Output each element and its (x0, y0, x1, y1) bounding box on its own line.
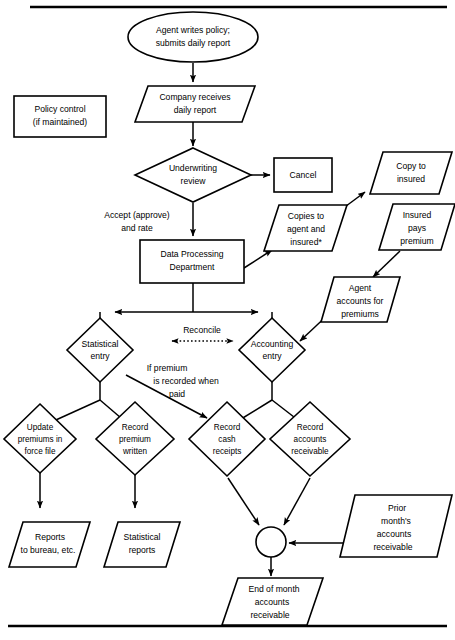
end-of-month-line-1: End of month (248, 584, 299, 594)
insured-pays-line-1: Insured (403, 210, 432, 220)
prior-month-line-4: receivable (373, 542, 412, 552)
agent-accounts-line-2: accounts for (337, 296, 384, 306)
summing-junction-circle (256, 527, 286, 557)
cancel-label: Cancel (290, 170, 317, 180)
accounting-entry-diamond (239, 318, 305, 382)
underwriting-review-line-2: review (181, 176, 207, 186)
if-premium-line-1: If premium (147, 363, 188, 373)
insured-pays-line-3: premium (400, 236, 433, 246)
node-company-receives-daily-report[interactable]: Company receives daily report (135, 86, 255, 122)
record-cash-line-1: Record (214, 423, 241, 432)
node-copy-to-insured[interactable]: Copy to insured (370, 152, 452, 194)
node-agent-accounts-for-premiums[interactable]: Agent accounts for premiums (321, 277, 400, 322)
accounting-entry-line-1: Accounting (251, 339, 294, 349)
edge-label-if-premium-is-recorded-when-paid: If premium is recorded when paid (147, 363, 219, 399)
update-premiums-line-2: premiums in (18, 435, 63, 444)
record-ar-line-1: Record (297, 423, 324, 432)
node-statistical-entry[interactable]: Statistical entry (67, 318, 133, 382)
edge-label-reconcile: Reconcile (183, 325, 221, 335)
statistical-entry-line-2: entry (90, 351, 110, 361)
insured-pays-line-2: pays (408, 223, 426, 233)
edge-label-accept-approve-and-rate: Accept (approve) and rate (104, 210, 170, 233)
node-cancel[interactable]: Cancel (274, 158, 332, 192)
reports-to-bureau-line-2: to bureau, etc. (21, 545, 76, 555)
company-receives-line-1: Company receives (159, 92, 230, 102)
copy-to-insured-line-2: insured (397, 174, 425, 184)
copies-to-agent-line-2: agent and (287, 224, 325, 234)
statistical-entry-diamond (67, 318, 133, 382)
node-accounting-entry[interactable]: Accounting entry (239, 318, 305, 382)
flowchart-page: Agent writes policy; submits daily repor… (0, 0, 455, 640)
reconcile-label: Reconcile (183, 325, 221, 335)
update-premiums-line-1: Update (27, 423, 54, 432)
record-premium-line-1: Record (122, 423, 149, 432)
prior-month-line-1: Prior (388, 503, 406, 513)
statistical-reports-line-2: reports (129, 545, 156, 555)
accept-rate-line-1: Accept (approve) (104, 210, 170, 220)
data-processing-line-1: Data Processing (160, 249, 223, 259)
record-ar-line-2: accounts (294, 435, 327, 444)
underwriting-review-line-1: Underwriting (169, 163, 217, 173)
node-underwriting-review[interactable]: Underwriting review (135, 148, 251, 202)
statistical-entry-line-1: Statistical (82, 339, 119, 349)
record-ar-line-3: receivable (291, 447, 329, 456)
node-end-of-month-accounts-receivable[interactable]: End of month accounts receivable (222, 578, 323, 625)
flowchart-canvas: Agent writes policy; submits daily repor… (0, 0, 455, 640)
node-agent-writes-policy[interactable]: Agent writes policy; submits daily repor… (128, 12, 258, 62)
data-processing-line-2: Department (170, 262, 216, 272)
policy-control-line-2: (if maintained) (33, 117, 88, 127)
node-update-premiums-in-force-file[interactable]: Update premiums in force file (4, 404, 76, 473)
edge-record-cash-to-junction (228, 478, 259, 525)
node-insured-pays-premium[interactable]: Insured pays premium (379, 204, 455, 250)
node-statistical-reports[interactable]: Statistical reports (104, 522, 180, 567)
node-policy-control[interactable]: Policy control (if maintained) (14, 96, 106, 137)
agent-writes-policy-ellipse (128, 12, 258, 62)
copies-to-agent-line-1: Copies to (288, 211, 325, 221)
edge-insured-pays-to-agent-accounts (373, 251, 400, 277)
record-cash-line-2: cash (218, 435, 236, 444)
node-record-accounts-receivable[interactable]: Record accounts receivable (270, 402, 350, 476)
copy-to-insured-parallelogram (370, 152, 452, 194)
edge-record-ar-to-junction (284, 478, 310, 525)
record-premium-line-3: written (122, 447, 148, 456)
record-cash-line-3: receipts (213, 447, 242, 456)
node-reports-to-bureau[interactable]: Reports to bureau, etc. (9, 522, 90, 567)
node-data-processing-department[interactable]: Data Processing Department (140, 240, 244, 283)
edge-data-processing-to-copies (244, 250, 272, 268)
reports-to-bureau-line-1: Reports (35, 532, 65, 542)
copies-to-agent-line-3: insured* (290, 237, 322, 247)
if-premium-line-2: is recorded when (153, 376, 219, 386)
copy-to-insured-line-1: Copy to (396, 161, 426, 171)
node-record-premium-written[interactable]: Record premium written (96, 402, 174, 475)
end-of-month-line-3: receivable (250, 610, 289, 620)
update-premiums-line-3: force file (25, 447, 56, 456)
statistical-reports-line-1: Statistical (124, 532, 161, 542)
node-summing-junction[interactable] (256, 527, 286, 557)
node-prior-months-accounts-receivable[interactable]: Prior month's accounts receivable (340, 495, 452, 557)
node-record-cash-receipts[interactable]: Record cash receipts (189, 402, 265, 476)
agent-accounts-line-1: Agent (349, 283, 372, 293)
policy-control-line-1: Policy control (34, 104, 85, 114)
end-of-month-line-2: accounts (255, 597, 289, 607)
agent-writes-policy-line-2: submits daily report (156, 38, 231, 48)
agent-writes-policy-line-1: Agent writes policy; (156, 25, 230, 35)
prior-month-line-2: month's (381, 516, 411, 526)
node-copies-to-agent-and-insured[interactable]: Copies to agent and insured* (264, 205, 347, 251)
accept-rate-line-2: and rate (121, 223, 153, 233)
prior-month-line-3: accounts (377, 529, 411, 539)
agent-accounts-line-3: premiums (341, 309, 379, 319)
underwriting-review-diamond (135, 148, 251, 202)
if-premium-line-3: paid (169, 389, 185, 399)
company-receives-line-2: daily report (174, 105, 217, 115)
accounting-entry-line-2: entry (262, 351, 282, 361)
record-premium-line-2: premium (119, 435, 151, 444)
